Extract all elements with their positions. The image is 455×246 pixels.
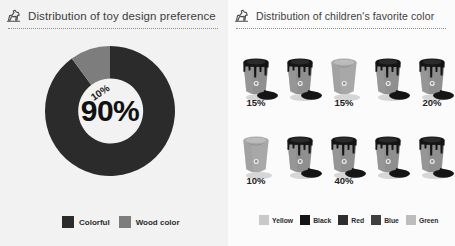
legend-swatch-black [300, 215, 310, 225]
left-chart-title-row: Distribution of toy design preference [6, 9, 220, 23]
legend-item-colorful[interactable]: Colorful [62, 216, 110, 228]
right-chart-title-row: Distribution of children's favorite colo… [234, 9, 450, 23]
infographic-root: Distribution of toy design preference 90… [0, 0, 455, 246]
right-chart-title: Distribution of children's favorite colo… [256, 10, 434, 22]
legend-swatch-colorful [62, 216, 74, 228]
legend-item-red[interactable]: Red [338, 215, 364, 225]
legend-swatch-yellow [259, 215, 269, 225]
legend-swatch-wood-color [119, 216, 131, 228]
legend-label-colorful: Colorful [79, 218, 110, 227]
left-chart-title: Distribution of toy design preference [28, 10, 216, 22]
toy-horse-icon [234, 9, 250, 23]
legend-swatch-blue [371, 215, 381, 225]
right-panel [228, 0, 455, 246]
legend-label-green: Green [419, 217, 439, 224]
favorite-color-legend: YellowBlackRedBlueGreen [259, 215, 439, 225]
legend-swatch-green [406, 215, 416, 225]
legend-item-yellow[interactable]: Yellow [259, 215, 293, 225]
right-title-divider [236, 28, 446, 29]
legend-label-black: Black [313, 217, 331, 224]
left-title-divider [8, 28, 218, 29]
legend-label-wood-color: Wood color [136, 218, 180, 227]
pictogram-row-1-labels: 15%15%20% [234, 97, 452, 111]
donut-chart: 90% 10% [39, 40, 181, 182]
legend-label-blue: Blue [384, 217, 399, 224]
pictogram-value-label: 15% [322, 97, 366, 108]
legend-item-wood-color[interactable]: Wood color [119, 216, 180, 228]
toy-design-legend: Colorful Wood color [62, 216, 180, 228]
donut-center-value: 90% [39, 40, 181, 182]
legend-item-green[interactable]: Green [406, 215, 439, 225]
toy-horse-icon [6, 9, 22, 23]
pictogram-value-label: 15% [234, 97, 278, 108]
legend-item-black[interactable]: Black [300, 215, 331, 225]
pictogram-value-label: 40% [322, 175, 366, 186]
legend-label-red: Red [351, 217, 364, 224]
legend-item-blue[interactable]: Blue [371, 215, 399, 225]
pictogram-value-label: 10% [234, 175, 278, 186]
legend-swatch-red [338, 215, 348, 225]
pictogram-row-2-labels: 10%40% [234, 175, 452, 189]
pictogram-value-label: 20% [410, 97, 454, 108]
legend-label-yellow: Yellow [272, 217, 293, 224]
